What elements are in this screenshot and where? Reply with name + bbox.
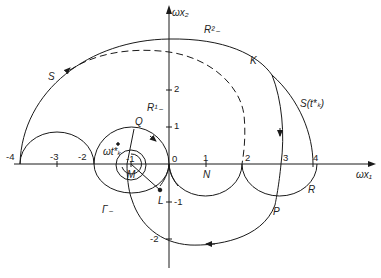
- label-K: K: [250, 56, 257, 66]
- curve-S-outer: [20, 39, 272, 164]
- label-P: P: [273, 207, 280, 217]
- label-Gamma: Γ₋: [102, 205, 113, 215]
- y-tick-label: -1: [174, 197, 182, 207]
- label-S-t: S(t*ₖ): [300, 99, 324, 109]
- phase-plane-diagram: -4 -3 -2 -1 0 1 2 3 4 2 1 -1 -2 ωx₂ ωx₁ …: [0, 0, 381, 278]
- x-tick-label: 1: [203, 153, 208, 163]
- trajectory-K-P: [272, 75, 283, 205]
- x-tick-label: -1: [126, 154, 134, 164]
- curve-S-t: [272, 75, 313, 167]
- label-R1: R¹₋: [147, 103, 163, 113]
- y-axis-label: ωx₂: [172, 8, 189, 18]
- label-L: L: [158, 196, 164, 206]
- label-omega-t: ωt*ₖ: [103, 147, 121, 157]
- label-N: N: [203, 170, 210, 180]
- y-tick-label: 1: [174, 121, 179, 131]
- x-tick-label: 4: [313, 153, 318, 163]
- x-tick-label: 2: [245, 153, 250, 163]
- x-axis-label: ωx₁: [356, 170, 372, 180]
- label-M: M: [127, 170, 135, 180]
- x-tick-label: -2: [78, 152, 86, 162]
- label-S: S: [48, 72, 55, 82]
- label-R2: R²₋: [204, 25, 220, 35]
- label-Q: Q: [135, 117, 143, 127]
- y-tick-label: 2: [174, 84, 179, 94]
- x-tick-label: -3: [50, 152, 58, 162]
- x-tick-label: 3: [283, 153, 288, 163]
- x-tick-label: 0: [172, 154, 177, 164]
- x-axis-arrow-icon: [368, 161, 376, 167]
- label-R: R: [308, 185, 315, 195]
- diagram-canvas: [0, 0, 381, 278]
- y-tick-label: -2: [150, 234, 158, 244]
- x-tick-label: -4: [6, 152, 14, 162]
